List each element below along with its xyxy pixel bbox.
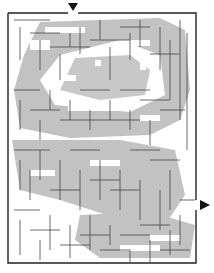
maze-board (0, 0, 214, 273)
entry-arrow-icon (68, 3, 78, 11)
exit-arrow-icon (200, 200, 210, 210)
